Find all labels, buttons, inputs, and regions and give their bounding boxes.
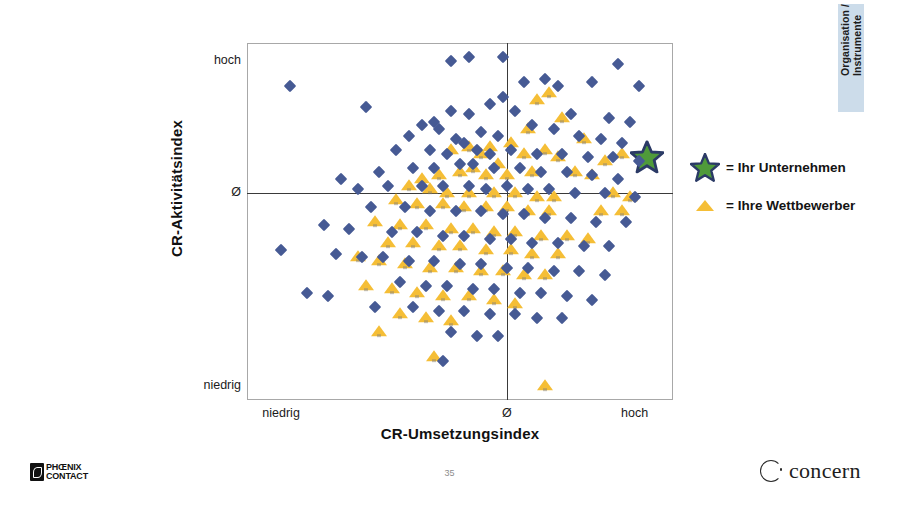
competitor-marker — [443, 222, 459, 233]
competitor-marker — [452, 240, 468, 251]
competitor-marker — [367, 215, 383, 226]
legend-item-competitors: = Ihre Wettbewerber — [688, 186, 888, 224]
competitor-marker — [380, 236, 396, 247]
triangle-icon — [688, 200, 722, 211]
competitor-marker — [443, 315, 459, 326]
competitor-marker — [418, 311, 434, 322]
legend-label-own-company: = Ihr Unternehmen — [726, 160, 846, 175]
competitor-marker — [478, 243, 494, 254]
plot-frame — [247, 43, 673, 400]
x-tick-label: hoch — [621, 406, 648, 420]
competitor-marker — [537, 379, 553, 390]
legend-label-competitors: = Ihre Wettbewerber — [726, 198, 855, 213]
competitor-marker — [371, 325, 387, 336]
competitor-marker — [593, 204, 609, 215]
competitor-marker — [431, 240, 447, 251]
concern-wordmark: concern — [789, 458, 861, 484]
concern-logo: concern — [760, 458, 861, 484]
x-tick-label: niedrig — [262, 406, 300, 420]
competitor-marker — [614, 204, 630, 215]
y-axis-title: CR-Aktivitätsindex — [168, 120, 188, 257]
competitor-marker — [507, 297, 523, 308]
competitor-marker — [409, 197, 425, 208]
star-icon — [688, 153, 722, 182]
competitor-marker — [559, 229, 575, 240]
competitor-marker — [405, 236, 421, 247]
competitor-marker — [401, 179, 417, 190]
competitor-marker — [465, 222, 481, 233]
competitor-marker — [418, 218, 434, 229]
competitor-marker — [499, 168, 515, 179]
legend-item-own-company: = Ihr Unternehmen — [688, 148, 888, 186]
competitor-marker — [435, 290, 451, 301]
y-tick-label: niedrig — [183, 378, 241, 392]
competitor-marker — [358, 279, 374, 290]
competitor-marker — [435, 197, 451, 208]
x-axis-title: CR-Umsetzungsindex — [247, 425, 673, 442]
competitor-marker — [392, 307, 408, 318]
section-tab-label: Organisation / Instrumente — [839, 4, 863, 78]
y-tick-label: hoch — [183, 53, 241, 67]
section-tab: Organisation / Instrumente — [838, 4, 864, 112]
concern-ring-icon — [760, 460, 782, 482]
y-tick-label: Ø — [183, 185, 241, 199]
competitor-marker — [516, 147, 532, 158]
competitor-marker — [529, 93, 545, 104]
competitor-marker — [533, 229, 549, 240]
scatter-chart — [247, 43, 673, 400]
x-tick-label: Ø — [502, 406, 512, 420]
chart-legend: = Ihr Unternehmen = Ihre Wettbewerber — [688, 148, 888, 224]
